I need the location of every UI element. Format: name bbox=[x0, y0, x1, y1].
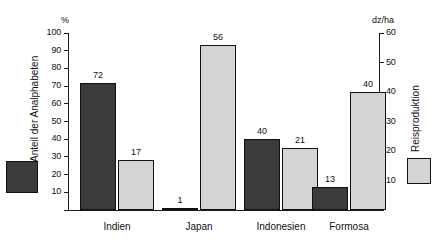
bar-analphabeten-formosa bbox=[312, 187, 348, 210]
bar-value-analphabeten-japan: 1 bbox=[162, 196, 198, 205]
bar-analphabeten-indien bbox=[80, 83, 116, 210]
right-tick bbox=[380, 62, 384, 63]
left-tick-label: 100 bbox=[28, 28, 61, 37]
bar-value-reisproduktion-japan: 56 bbox=[200, 33, 236, 42]
right-tick-label: 40 bbox=[386, 87, 410, 96]
right-tick bbox=[380, 33, 384, 34]
legend-swatch-analphabeten bbox=[6, 161, 38, 193]
left-tick bbox=[64, 192, 68, 193]
bar-analphabeten-japan bbox=[162, 208, 198, 210]
bar-value-reisproduktion-indonesien: 21 bbox=[282, 136, 318, 145]
left-tick bbox=[64, 50, 68, 51]
left-tick bbox=[64, 86, 68, 87]
chart-container: % 102030405060708090100 Anteil der Analp… bbox=[0, 0, 434, 247]
legend-swatch-reisproduktion bbox=[407, 158, 431, 184]
bar-value-reisproduktion-formosa: 40 bbox=[350, 80, 386, 89]
left-axis-line bbox=[68, 33, 69, 211]
category-label-formosa: Formosa bbox=[290, 222, 408, 232]
left-tick bbox=[64, 156, 68, 157]
bar-value-analphabeten-formosa: 13 bbox=[312, 175, 348, 184]
right-tick-label: 50 bbox=[386, 58, 410, 67]
right-tick-label: 20 bbox=[386, 146, 410, 155]
bar-value-reisproduktion-indien: 17 bbox=[118, 148, 154, 157]
left-tick bbox=[64, 139, 68, 140]
right-tick-label: 30 bbox=[386, 117, 410, 126]
left-tick bbox=[64, 33, 68, 34]
left-tick bbox=[64, 103, 68, 104]
bar-analphabeten-indonesien bbox=[244, 139, 280, 210]
left-axis-title: Anteil der Analphabeten bbox=[30, 56, 40, 162]
bar-value-analphabeten-indien: 72 bbox=[80, 71, 116, 80]
bar-reisproduktion-formosa bbox=[350, 92, 386, 210]
left-tick-label: 90 bbox=[28, 46, 61, 55]
left-tick bbox=[64, 174, 68, 175]
left-tick bbox=[64, 121, 68, 122]
left-axis-unit: % bbox=[61, 16, 69, 25]
left-tick bbox=[64, 68, 68, 69]
bar-reisproduktion-indien bbox=[118, 160, 154, 210]
right-axis-title: Reisproduktion bbox=[411, 85, 421, 152]
bar-reisproduktion-japan bbox=[200, 45, 236, 210]
baseline-axis bbox=[68, 210, 380, 211]
bar-value-analphabeten-indonesien: 40 bbox=[244, 127, 280, 136]
right-tick-label: 60 bbox=[386, 28, 410, 37]
right-axis-unit: dz/ha bbox=[372, 16, 394, 25]
